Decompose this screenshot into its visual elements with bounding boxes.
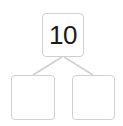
right-connector [64, 57, 93, 75]
part-box-left[interactable] [11, 75, 55, 120]
part-box-right[interactable] [72, 75, 115, 120]
whole-value: 10 [49, 20, 77, 51]
whole-box: 10 [42, 13, 84, 57]
left-connector [33, 57, 62, 75]
